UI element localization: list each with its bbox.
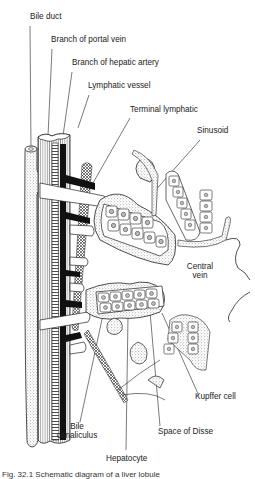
upper-right-plate [166,171,231,247]
label-terminal-lymphatic: Terminal lymphatic [130,105,198,114]
label-hepatocyte: Hepatocyte [106,454,147,463]
label-branch-of-portal-vein: Branch of portal vein [51,35,126,44]
central-vein-outline [226,238,250,322]
lower-right-plate [164,315,210,371]
lower-hepatocyte-plate [86,282,165,319]
label-bile-duct: Bile duct [30,12,61,21]
label-kupffer-cell: Kupffer cell [195,392,236,401]
label-lymphatic-vessel: Lymphatic vessel [88,81,151,90]
label-branch-of-hepatic-artery: Branch of hepatic artery [72,58,159,67]
figure-caption: Fig. 32.1 Schematic diagram of a liver l… [2,470,160,479]
upper-hepatocyte-plate [94,194,176,265]
label-sinusoid: Sinusoid [197,126,228,135]
label-bile-canaliculus: Bile canaliculus [52,422,102,440]
label-central-vein: Central vein [182,262,218,280]
liver-lobule-diagram [0,0,255,479]
label-space-of-disse: Space of Disse [158,427,213,436]
